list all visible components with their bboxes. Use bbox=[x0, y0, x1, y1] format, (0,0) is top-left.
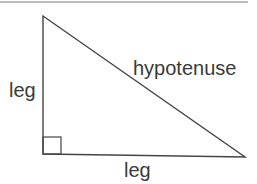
hypotenuse-label: hypotenuse bbox=[133, 58, 236, 78]
vertical-leg-label: leg bbox=[9, 80, 36, 100]
horizontal-leg-label: leg bbox=[124, 160, 151, 180]
right-triangle bbox=[0, 0, 257, 184]
right-angle-marker bbox=[43, 137, 61, 154]
triangle-outline bbox=[43, 16, 245, 157]
